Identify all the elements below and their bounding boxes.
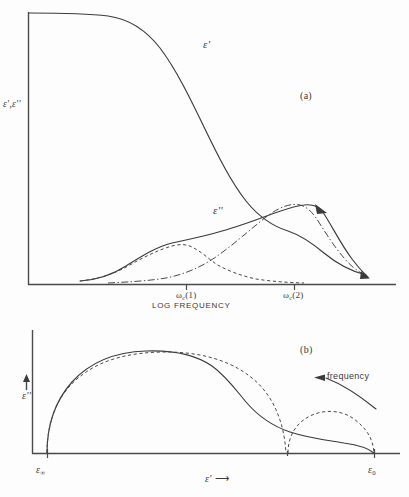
- panel-a-tick-label-wc2: ωc(2): [283, 290, 304, 301]
- panel-b-x-axis-label: ε' ⟶: [205, 473, 229, 484]
- panel-a-x-axis-label: LOG FREQUENCY: [152, 301, 230, 310]
- curve-label-epsilon-real: ε': [203, 38, 210, 50]
- panel-b-y-axis-label: ε'': [22, 390, 31, 401]
- panel-a-tag: (a): [300, 90, 312, 101]
- epsilon-subscript-infinity: ∞: [40, 469, 45, 476]
- panel-b-tag: (b): [300, 344, 313, 355]
- panel-b-group: [23, 330, 400, 458]
- panel-a-group: [28, 12, 396, 290]
- panel-b-ylabel-arrow-head: [23, 374, 30, 382]
- curve-epsilon-loss-process-2: [108, 204, 368, 283]
- panel-b-x-axis-symbol: ε': [205, 473, 212, 484]
- panel-b-x-axis-arrow: ⟶: [215, 473, 229, 484]
- curve-label-epsilon-loss: ε'': [213, 204, 223, 216]
- figure-dielectric-relaxation: ε',ε'' (a) ε' ε'' ωc(1) ωc(2) LOG FREQUE…: [0, 0, 409, 497]
- omega-suffix-2: (2): [292, 290, 303, 300]
- panel-b-label-epsilon-infinity: ε∞: [36, 464, 45, 476]
- panel-a-tail-arrowhead: [360, 271, 370, 279]
- frequency-arrow-head: [314, 375, 325, 382]
- omega-suffix-1: (1): [185, 290, 196, 300]
- curve-epsilon-loss-process-1: [80, 245, 304, 283]
- panel-a-convergence-arrowhead: [315, 204, 327, 214]
- figure-canvas: [0, 0, 409, 497]
- curve-cole-cole-arc-1: [47, 352, 286, 453]
- epsilon-subscript-zero: 0: [372, 469, 376, 476]
- frequency-annotation-label: frequency: [327, 371, 369, 381]
- panel-a-tick-label-wc1: ωc(1): [176, 290, 197, 301]
- frequency-arrow-shaft: [326, 378, 376, 409]
- curve-epsilon-loss-total: [80, 205, 368, 281]
- curve-epsilon-real: [29, 13, 366, 275]
- panel-a-y-axis-label: ε',ε'': [3, 99, 21, 109]
- panel-b-label-epsilon-zero: ε0: [368, 464, 376, 476]
